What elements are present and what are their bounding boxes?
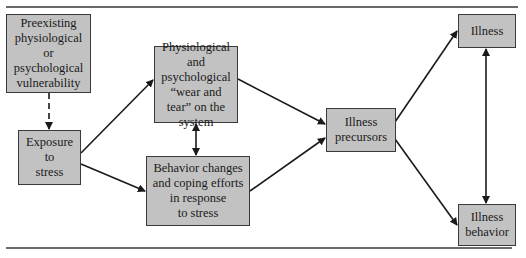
arrow-weartear-precursors — [238, 79, 325, 124]
arrow-precursors-illnessbehavior — [395, 139, 457, 225]
node-label: Physiological and psychological “wear an… — [161, 40, 230, 130]
node-label: Behavior changes and coping efforts in r… — [153, 161, 244, 221]
node-label: Illness precursors — [335, 115, 387, 145]
node-wear-and-tear: Physiological and psychological “wear an… — [154, 46, 238, 123]
node-label: Illness behavior — [465, 210, 509, 240]
node-exposure-to-stress: Exposure to stress — [18, 130, 81, 185]
arrow-precursors-illness — [395, 31, 457, 122]
node-behavior-changes: Behavior changes and coping efforts in r… — [146, 156, 250, 226]
node-illness-behavior: Illness behavior — [458, 204, 516, 246]
node-preexisting-vulnerability: Preexisting physiological or psychologic… — [6, 14, 91, 93]
node-illness-precursors: Illness precursors — [326, 108, 396, 152]
node-label: Illness — [471, 24, 504, 39]
arrow-behavior-precursors — [250, 138, 325, 191]
arrow-exposure-weartear — [81, 80, 153, 153]
node-label: Preexisting physiological or psychologic… — [14, 16, 83, 91]
node-illness: Illness — [458, 14, 516, 48]
arrow-exposure-behavior — [81, 164, 145, 191]
node-label: Exposure to stress — [26, 135, 73, 180]
